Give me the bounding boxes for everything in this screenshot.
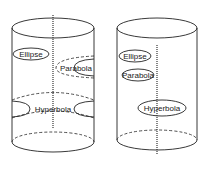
left-ellipse-label: Ellipse bbox=[19, 50, 43, 59]
right-top-rim bbox=[117, 18, 197, 38]
right-parabola-label: Parabola bbox=[122, 71, 155, 80]
left-bottom-rim-back bbox=[12, 132, 94, 142]
left-parabola-label: Parabola bbox=[60, 64, 93, 73]
left-hyperbola-label: Hyperbola bbox=[35, 105, 72, 114]
left-bottom-rim-front bbox=[12, 142, 94, 152]
right-cylinder: Ellipse Parabola Hyperbola bbox=[117, 18, 197, 155]
conic-sections-diagram: Ellipse Parabola Hyperbola Ellipse Parab… bbox=[0, 0, 207, 170]
right-ellipse-label: Ellipse bbox=[123, 52, 147, 61]
left-cylinder: Ellipse Parabola Hyperbola bbox=[12, 15, 94, 152]
left-hyperbola-curve-left bbox=[12, 101, 30, 117]
right-hyperbola-label: Hyperbola bbox=[144, 104, 181, 113]
left-hyperbola-curve-right bbox=[74, 101, 94, 117]
